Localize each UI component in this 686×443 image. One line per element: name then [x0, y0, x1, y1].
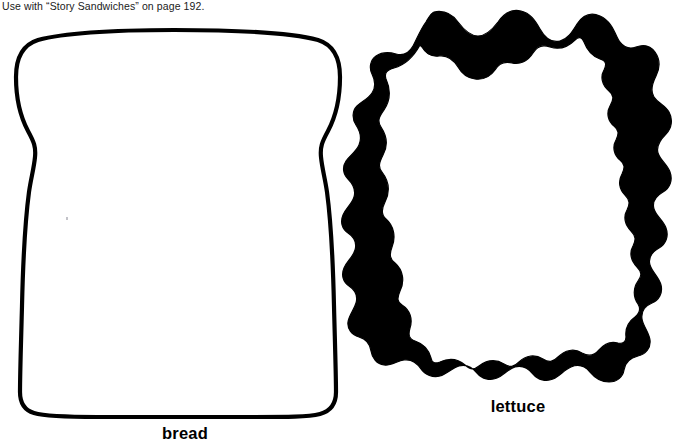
lettuce-label: lettuce — [350, 397, 686, 416]
lettuce-template-shape — [0, 0, 686, 443]
bread-label: bread — [0, 424, 370, 443]
lettuce-ruffled-band-path — [342, 10, 672, 382]
worksheet-page: Use with “Story Sandwiches” on page 192.… — [0, 0, 686, 443]
